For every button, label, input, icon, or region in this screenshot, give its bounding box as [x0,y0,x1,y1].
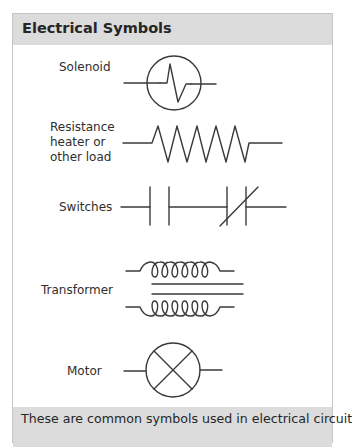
transformer-icon [126,262,243,316]
resistor-icon [123,126,282,162]
solenoid-icon [124,56,216,110]
motor-icon [124,343,222,397]
switches-icon [121,187,286,226]
